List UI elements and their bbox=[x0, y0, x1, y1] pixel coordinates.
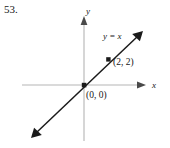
point-label-0-0: (0, 0) bbox=[86, 90, 107, 101]
y-axis bbox=[81, 16, 88, 141]
x-axis-label: x bbox=[151, 80, 156, 90]
figure-container: 53. x y y = x (2, 2) ( bbox=[0, 0, 170, 148]
coordinate-graph: x y y = x (2, 2) (0, 0) bbox=[0, 0, 170, 148]
point-label-2-2: (2, 2) bbox=[113, 57, 134, 68]
x-axis-arrowhead bbox=[137, 82, 146, 89]
equation-label: y = x bbox=[102, 31, 122, 41]
point-marker bbox=[106, 57, 110, 61]
origin-marker bbox=[82, 83, 87, 88]
y-axis-label: y bbox=[85, 6, 90, 16]
y-axis-arrowhead bbox=[81, 16, 88, 25]
